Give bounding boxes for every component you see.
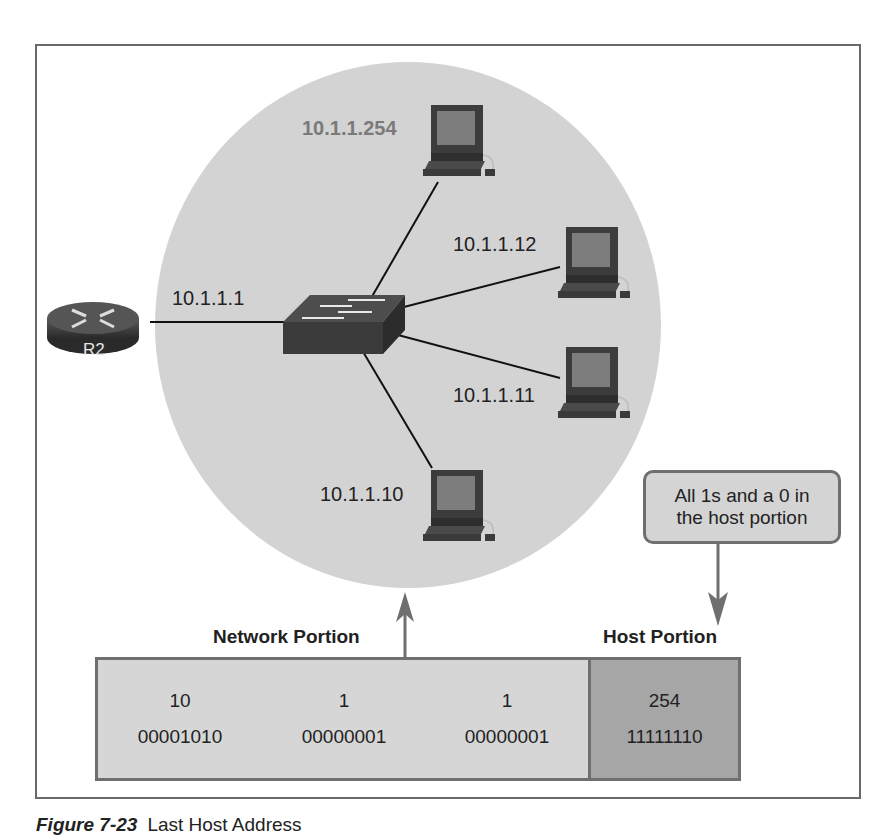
octet-1: 10 00001010: [98, 660, 262, 778]
host-ip-label-254: 10.1.1.254: [302, 117, 397, 140]
callout-box: All 1s and a 0 in the host portion: [643, 470, 841, 544]
switch-icon: [283, 295, 405, 354]
caption-title: Last Host Address: [147, 814, 301, 835]
host-portion-label: Host Portion: [603, 626, 717, 648]
network-portion-label: Network Portion: [213, 626, 360, 648]
host-ip-label-10: 10.1.1.10: [320, 483, 403, 506]
caption-number: Figure 7-23: [36, 814, 137, 835]
octet-binary: 11111110: [626, 719, 702, 755]
octet-binary: 00001010: [138, 719, 223, 755]
octet-decimal: 1: [339, 683, 350, 719]
callout-line-1: All 1s and a 0 in: [674, 485, 809, 507]
octet-binary: 00000001: [465, 719, 550, 755]
address-octets: 10 00001010 1 00000001 1 00000001 254 11…: [95, 657, 741, 781]
octet-binary: 00000001: [302, 719, 387, 755]
host-ip-label-12: 10.1.1.12: [453, 233, 536, 256]
router-ip-label: 10.1.1.1: [172, 287, 244, 310]
octet-decimal: 10: [169, 683, 190, 719]
octet-2: 1 00000001: [262, 660, 426, 778]
octet-decimal: 1: [502, 683, 513, 719]
octet-decimal: 254: [649, 683, 681, 719]
octet-3: 1 00000001: [426, 660, 588, 778]
octet-4-host: 254 11111110: [588, 660, 738, 778]
lan-circle: [155, 62, 661, 588]
host-ip-label-11: 10.1.1.11: [453, 384, 535, 407]
callout-line-2: the host portion: [677, 507, 808, 529]
router-label: R2: [83, 340, 105, 360]
figure-caption: Figure 7-23Last Host Address: [36, 814, 302, 836]
